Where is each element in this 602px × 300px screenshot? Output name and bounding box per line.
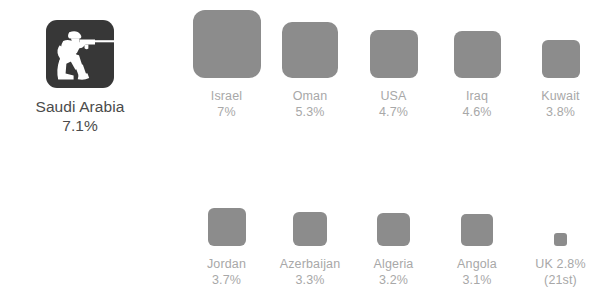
value-square — [554, 233, 567, 246]
country-cell: Algeria3.2% — [352, 178, 435, 288]
country-name: USA — [379, 88, 408, 104]
value-square — [293, 212, 327, 246]
country-caption: USA4.7% — [379, 88, 408, 120]
country-caption: Jordan3.7% — [207, 256, 246, 288]
country-caption: Israel7% — [211, 88, 242, 120]
country-caption: Iraq4.6% — [462, 88, 491, 120]
square-mark-slot — [454, 10, 501, 78]
country-caption: Algeria3.2% — [374, 256, 414, 288]
country-caption: Angola3.1% — [457, 256, 497, 288]
soldier-with-rifle-icon — [46, 20, 114, 88]
value-square — [208, 208, 246, 246]
country-cell: Israel7% — [185, 10, 268, 120]
country-name: Angola — [457, 256, 497, 272]
value-square — [542, 40, 580, 78]
country-caption: Oman5.3% — [293, 88, 328, 120]
country-name: Azerbaijan — [280, 256, 341, 272]
country-value: 3.1% — [457, 272, 497, 288]
country-cell: USA4.7% — [352, 10, 435, 120]
country-value: 3.7% — [207, 272, 246, 288]
country-cell: UK 2.8%(21st) — [519, 178, 602, 288]
square-mark-slot — [293, 178, 327, 246]
square-mark-slot — [461, 178, 493, 246]
country-name: Iraq — [462, 88, 491, 104]
square-mark-slot — [282, 10, 338, 78]
country-cell: Angola3.1% — [436, 178, 519, 288]
square-mark-slot — [370, 10, 418, 78]
value-square — [193, 10, 261, 78]
country-value: 4.7% — [379, 104, 408, 120]
square-mark-slot — [542, 10, 580, 78]
country-name: Algeria — [374, 256, 414, 272]
square-mark-slot — [193, 10, 261, 78]
country-name: UK 2.8% — [535, 256, 585, 272]
proportional-square-infographic: Saudi Arabia 7.1% Israel7%Oman5.3%USA4.7… — [0, 0, 602, 300]
country-value: 5.3% — [293, 104, 328, 120]
value-square — [282, 22, 338, 78]
square-mark-slot — [208, 178, 246, 246]
country-value: 3.3% — [280, 272, 341, 288]
square-mark-slot — [554, 178, 567, 246]
square-row-2: Jordan3.7%Azerbaijan3.3%Algeria3.2%Angol… — [185, 178, 602, 288]
country-cell: Iraq4.6% — [436, 10, 519, 120]
country-caption: Kuwait3.8% — [541, 88, 579, 120]
square-row-1: Israel7%Oman5.3%USA4.7%Iraq4.6%Kuwait3.8… — [185, 10, 602, 120]
country-value: 3.8% — [541, 104, 579, 120]
country-cell: Jordan3.7% — [185, 178, 268, 288]
value-square — [461, 214, 493, 246]
country-cell: Kuwait3.8% — [519, 10, 602, 120]
country-cell: Azerbaijan3.3% — [269, 178, 352, 288]
country-name: Jordan — [207, 256, 246, 272]
featured-country-value: 7.1% — [0, 116, 160, 135]
square-mark-slot — [377, 178, 410, 246]
country-cell: Oman5.3% — [269, 10, 352, 120]
country-name: Israel — [211, 88, 242, 104]
country-caption: UK 2.8%(21st) — [535, 256, 585, 288]
featured-country-name: Saudi Arabia — [0, 97, 160, 116]
country-value: 7% — [211, 104, 242, 120]
value-square — [377, 213, 410, 246]
value-square — [454, 31, 501, 78]
country-value: 4.6% — [462, 104, 491, 120]
country-value: 3.2% — [374, 272, 414, 288]
featured-country: Saudi Arabia 7.1% — [0, 14, 160, 135]
value-square — [370, 30, 418, 78]
country-name: Kuwait — [541, 88, 579, 104]
country-name: Oman — [293, 88, 328, 104]
country-value: (21st) — [535, 272, 585, 288]
country-caption: Azerbaijan3.3% — [280, 256, 341, 288]
